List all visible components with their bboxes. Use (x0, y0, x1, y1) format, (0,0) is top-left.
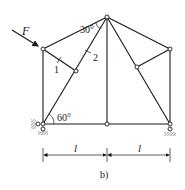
figure-caption: b) (100, 169, 108, 181)
node-B (105, 122, 109, 126)
node-G (168, 47, 172, 51)
right-strut (137, 49, 170, 67)
node-A (41, 122, 45, 126)
member-1-label: 1 (54, 64, 59, 75)
member-2-label: 2 (93, 52, 98, 63)
angle-30-label: 30° (80, 24, 94, 35)
truss-diagram: F 30° 60° 1 2 (0, 0, 185, 190)
node-D (41, 47, 45, 51)
truss-members (43, 17, 170, 124)
angle-60-label: 60° (57, 112, 71, 123)
dimension-right-label: l (138, 142, 141, 154)
angle-arc-30 (96, 23, 101, 28)
node-E (105, 15, 109, 19)
dimension-lines (43, 148, 170, 162)
angle-arc-60 (49, 114, 54, 124)
node-H (74, 69, 78, 73)
truss-figure: F 30° 60° 1 2 (0, 0, 185, 190)
node-C (168, 122, 172, 126)
member-1 (43, 49, 76, 71)
dimension-left-label: l (74, 142, 77, 154)
node-K (135, 65, 139, 69)
pin-support (31, 119, 48, 135)
roller-support (164, 127, 176, 136)
force-label: F (21, 24, 30, 38)
